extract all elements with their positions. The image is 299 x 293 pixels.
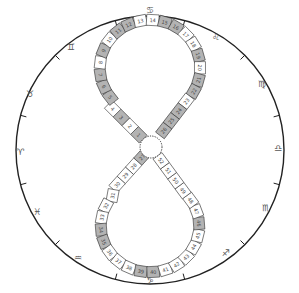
leo-icon: ♌ xyxy=(212,32,220,42)
sagittarius-icon: ♐ xyxy=(222,248,230,258)
tick-mark xyxy=(241,55,245,59)
cancer-icon: ♋ xyxy=(146,5,154,15)
aries-icon: ♈ xyxy=(16,147,25,157)
tick-mark xyxy=(183,274,185,280)
track-cell: 7 xyxy=(94,68,107,82)
scorpio-icon: ♏ xyxy=(262,203,270,213)
cell-number: 34 xyxy=(98,226,105,233)
tick-mark xyxy=(274,183,280,185)
cell-number: 33 xyxy=(98,214,105,221)
virgo-icon: ♍ xyxy=(258,79,266,89)
cell-number: 39 xyxy=(137,268,144,275)
tick-mark xyxy=(55,241,59,245)
libra-icon: ♎ xyxy=(274,143,282,153)
cell-number: 20 xyxy=(197,65,203,71)
cell-number: 14 xyxy=(149,17,156,23)
track-cell: 45 xyxy=(191,228,205,243)
cell-number: 40 xyxy=(150,269,157,275)
center-crossing-marker xyxy=(140,136,162,158)
tick-mark xyxy=(241,241,245,245)
aquarius-icon: ♒ xyxy=(74,253,82,263)
track-cell: 13 xyxy=(133,14,147,27)
cell-number: 46 xyxy=(196,220,202,227)
track-cell: 39 xyxy=(134,265,148,278)
taurus-icon: ♉ xyxy=(26,89,34,99)
pisces-icon: ♓ xyxy=(33,207,41,217)
track-cell: 14 xyxy=(146,14,159,26)
track-cell: 33 xyxy=(95,210,108,224)
tick-mark xyxy=(55,55,59,59)
tick-mark xyxy=(21,183,27,185)
tick-mark xyxy=(274,115,280,117)
cell-number: 31 xyxy=(109,192,116,199)
track-cell: 19 xyxy=(191,48,205,63)
track-cell: 40 xyxy=(147,266,160,278)
gemini-icon: ♊ xyxy=(67,42,75,52)
track-cell: 20 xyxy=(194,62,205,74)
figure-eight-board: ♋♌♍♎♏♐♑♒♓♈♉♊ 123456789101112131415161718… xyxy=(0,0,299,293)
tick-mark xyxy=(21,115,27,117)
cell-number: 13 xyxy=(137,17,144,24)
tick-mark xyxy=(115,274,117,280)
